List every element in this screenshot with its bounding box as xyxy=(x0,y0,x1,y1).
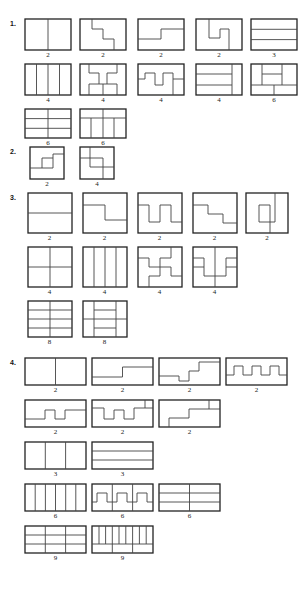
section-3: 3. 2 2 2 xyxy=(0,192,304,347)
figure-diagram xyxy=(91,441,154,470)
figure-diagram xyxy=(158,399,221,428)
figure-caption: 2 xyxy=(48,234,52,243)
figure[interactable]: 6 xyxy=(248,63,300,105)
figure-caption: 2 xyxy=(188,428,192,437)
figure-diagram xyxy=(24,63,72,96)
figure[interactable]: 9 xyxy=(22,525,89,563)
figure-caption: 2 xyxy=(45,180,49,189)
figure-diagram xyxy=(158,357,221,386)
figure-diagram xyxy=(24,483,87,512)
figure-caption: 4 xyxy=(158,288,162,297)
figure[interactable]: 2 xyxy=(74,18,132,60)
figure[interactable]: 4 xyxy=(22,246,77,297)
figure-diagram xyxy=(195,18,243,51)
section-1-row-3: 6 6 xyxy=(22,108,304,148)
section-2-row-1: 2 4 xyxy=(22,146,304,189)
figure-diagram xyxy=(79,108,127,139)
section-4-row-5: 9 9 xyxy=(22,525,304,563)
figure-diagram xyxy=(27,246,73,288)
section-1-row-1: 2 2 2 2 xyxy=(22,18,304,60)
figure[interactable]: 4 xyxy=(72,146,122,189)
figure[interactable]: 3 xyxy=(248,18,300,60)
worksheet-page: 1. 2 2 2 xyxy=(0,0,304,589)
section-1-number: 1. xyxy=(10,20,16,27)
figure[interactable]: 2 xyxy=(156,399,223,437)
figure-diagram xyxy=(192,192,238,234)
figure[interactable]: 6 xyxy=(74,108,132,148)
section-4-number: 4. xyxy=(10,359,16,366)
figure-diagram xyxy=(79,146,115,180)
figure[interactable]: 2 xyxy=(132,192,187,243)
figure[interactable]: 4 xyxy=(190,63,248,105)
figure-diagram xyxy=(250,18,298,51)
figure[interactable]: 2 xyxy=(22,146,72,189)
figure[interactable]: 4 xyxy=(74,63,132,105)
figure[interactable]: 2 xyxy=(242,192,292,243)
figure-diagram xyxy=(27,192,73,234)
figure-diagram xyxy=(91,525,154,554)
section-3-number: 3. xyxy=(10,194,16,201)
figure-caption: 4 xyxy=(46,96,50,105)
section-3-row-1: 2 2 2 2 xyxy=(22,192,304,243)
figure[interactable]: 2 xyxy=(156,357,223,395)
section-3-row-3: 8 8 xyxy=(22,300,304,347)
figure-caption: 4 xyxy=(103,288,107,297)
figure[interactable]: 2 xyxy=(187,192,242,243)
figure[interactable]: 2 xyxy=(223,357,290,395)
figure[interactable]: 6 xyxy=(22,108,74,148)
figure-caption: 3 xyxy=(121,470,125,479)
section-2-number: 2. xyxy=(10,148,16,155)
figure[interactable]: 6 xyxy=(156,483,223,521)
figure[interactable]: 2 xyxy=(190,18,248,60)
figure[interactable]: 2 xyxy=(132,18,190,60)
figure[interactable]: 8 xyxy=(77,300,132,347)
figure[interactable]: 3 xyxy=(89,441,156,479)
figure-diagram xyxy=(137,192,183,234)
figure[interactable]: 4 xyxy=(187,246,242,297)
figure-caption: 8 xyxy=(103,338,107,347)
figure-diagram xyxy=(24,108,72,139)
figure-caption: 4 xyxy=(159,96,163,105)
figure-diagram xyxy=(192,246,238,288)
figure-caption: 2 xyxy=(255,386,259,395)
section-1: 1. 2 2 2 xyxy=(0,18,304,148)
figure-caption: 4 xyxy=(48,288,52,297)
figure-caption: 2 xyxy=(121,386,125,395)
figure-caption: 4 xyxy=(101,96,105,105)
figure-diagram xyxy=(195,63,243,96)
figure-caption: 2 xyxy=(158,234,162,243)
figure-caption: 6 xyxy=(54,512,58,521)
figure-diagram xyxy=(250,63,298,96)
figure[interactable]: 6 xyxy=(22,483,89,521)
figure-caption: 2 xyxy=(121,428,125,437)
figure-diagram xyxy=(79,63,127,96)
section-4-row-3: 3 3 xyxy=(22,441,304,479)
figure-diagram xyxy=(91,399,154,428)
figure[interactable]: 6 xyxy=(89,483,156,521)
figure[interactable]: 4 xyxy=(132,246,187,297)
figure-diagram xyxy=(137,63,185,96)
figure[interactable]: 3 xyxy=(22,441,89,479)
figure[interactable]: 4 xyxy=(22,63,74,105)
figure[interactable]: 8 xyxy=(22,300,77,347)
figure[interactable]: 2 xyxy=(22,399,89,437)
figure[interactable]: 2 xyxy=(22,18,74,60)
figure-diagram xyxy=(24,441,87,470)
figure[interactable]: 9 xyxy=(89,525,156,563)
figure[interactable]: 2 xyxy=(89,357,156,395)
figure-diagram xyxy=(29,146,65,180)
figure-diagram xyxy=(24,399,87,428)
figure-caption: 4 xyxy=(217,96,221,105)
figure-diagram xyxy=(91,357,154,386)
figure[interactable]: 2 xyxy=(77,192,132,243)
figure-caption: 4 xyxy=(95,180,99,189)
figure[interactable]: 2 xyxy=(22,192,77,243)
figure[interactable]: 4 xyxy=(132,63,190,105)
figure-diagram xyxy=(91,483,154,512)
figure[interactable]: 4 xyxy=(77,246,132,297)
figure-caption: 6 xyxy=(272,96,276,105)
figure[interactable]: 2 xyxy=(89,399,156,437)
figure[interactable]: 2 xyxy=(22,357,89,395)
figure-caption: 3 xyxy=(272,51,276,60)
figure-caption: 2 xyxy=(103,234,107,243)
